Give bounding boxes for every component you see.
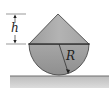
cone xyxy=(29,14,89,44)
radius-label: R xyxy=(66,49,75,63)
cone-hemisphere-diagram: h R xyxy=(0,0,109,91)
ground-surface xyxy=(10,76,109,88)
diagram-canvas xyxy=(0,0,109,91)
height-arrow-up-icon xyxy=(13,15,16,19)
hemisphere xyxy=(29,44,89,75)
height-arrow-down-icon xyxy=(13,40,16,44)
height-label: h xyxy=(11,21,19,35)
